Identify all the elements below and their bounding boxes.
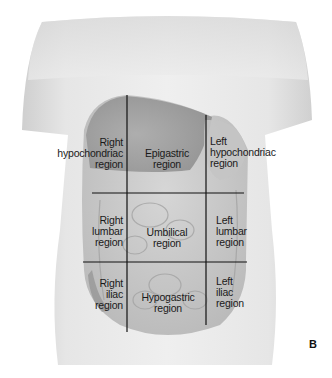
abdomen-diagram: Right hypochondriac region Epigastric re…: [0, 0, 332, 378]
label-right-lumbar: Right lumbar region: [80, 215, 123, 248]
label-right-iliac: Right iliac region: [80, 278, 123, 311]
label-left-iliac: Left iliac region: [216, 276, 266, 309]
panel-label: B: [309, 338, 317, 350]
label-left-hypochondriac: Left hypochondriac region: [210, 136, 310, 169]
label-hypogastric: Hypogastric region: [130, 292, 206, 314]
label-right-hypochondriac: Right hypochondriac region: [40, 137, 123, 170]
torso-illustration: [0, 0, 332, 378]
label-left-lumbar: Left lumbar region: [216, 215, 266, 248]
label-epigastric: Epigastric region: [130, 148, 204, 170]
label-umbilical: Umbilical region: [130, 227, 204, 249]
